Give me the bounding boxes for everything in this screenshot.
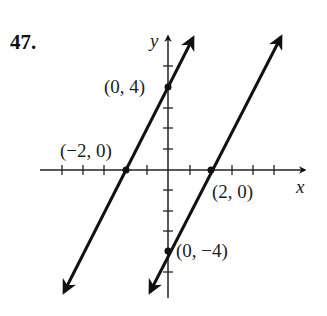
graph [0,0,327,316]
label-neg2-0: (−2, 0) [60,140,112,162]
point-2-0 [208,167,215,174]
y-axis-label: y [150,30,158,52]
point-0-4 [165,84,172,91]
point-neg2-0 [123,167,130,174]
label-0-4: (0, 4) [104,76,145,98]
label-2-0: (2, 0) [212,181,253,203]
label-0-neg4: (0, −4) [176,240,228,262]
point-0-neg4 [165,248,172,255]
x-axis-label: x [296,176,304,198]
